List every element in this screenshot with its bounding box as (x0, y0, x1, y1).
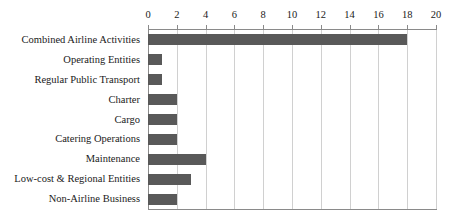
y-axis-category-label: Non-Airline Business (49, 193, 140, 205)
bar (148, 94, 177, 105)
x-axis-tick-label: 20 (431, 9, 442, 20)
gridline-vertical (350, 30, 351, 210)
x-axis-tick-label: 14 (344, 9, 355, 20)
gridline-vertical (436, 30, 437, 210)
bar (148, 114, 177, 125)
y-axis-category-label: Regular Public Transport (34, 74, 140, 86)
y-axis-category-label: Cargo (115, 114, 140, 126)
y-axis-category-labels: Combined Airline ActivitiesOperating Ent… (0, 0, 144, 221)
x-axis-tick-label: 4 (203, 9, 208, 20)
x-axis-tick-label: 6 (232, 9, 237, 20)
bar (148, 174, 191, 185)
x-axis-tick-label: 10 (287, 9, 298, 20)
plot-area (148, 30, 436, 210)
bar (148, 34, 407, 45)
gridline-vertical (206, 30, 207, 210)
x-axis-tick-label: 2 (174, 9, 179, 20)
y-axis-category-label: Low-cost & Regional Entities (14, 173, 140, 185)
x-axis-tick-label: 8 (261, 9, 266, 20)
x-axis-baseline (148, 209, 437, 210)
y-axis-category-label: Maintenance (86, 153, 140, 165)
x-axis-tick-label: 18 (402, 9, 413, 20)
bar (148, 74, 162, 85)
gridline-vertical (321, 30, 322, 210)
gridline-vertical (234, 30, 235, 210)
gridline-vertical (292, 30, 293, 210)
y-axis-category-label: Charter (109, 94, 141, 106)
gridline-vertical (378, 30, 379, 210)
x-axis-tick-label: 0 (145, 9, 150, 20)
x-axis-tick-label: 12 (316, 9, 327, 20)
y-axis-category-label: Combined Airline Activities (22, 34, 140, 46)
gridline-vertical (407, 30, 408, 210)
horizontal-bar-chart: 02468101214161820 Combined Airline Activ… (0, 0, 457, 221)
bar (148, 54, 162, 65)
bar (148, 154, 206, 165)
y-axis-category-label: Catering Operations (55, 133, 140, 145)
x-axis-tick-label: 16 (373, 9, 384, 20)
y-axis-category-label: Operating Entities (63, 54, 140, 66)
bar (148, 194, 177, 205)
gridline-vertical (263, 30, 264, 210)
bar (148, 134, 177, 145)
